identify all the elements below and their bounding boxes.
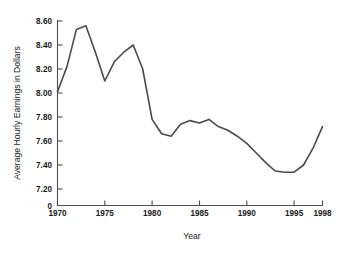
line-chart: 8.60 8.40 8.20 8.00 7.80 7.60 7.40 7.20 …: [0, 0, 344, 253]
y-tick-label: 7.80: [36, 113, 52, 122]
x-tick-labels: 1970 1975 1980 1985 1990 1995 1998: [48, 209, 332, 218]
x-tick-label: 1998: [313, 209, 332, 218]
x-tick-label: 1970: [48, 209, 67, 218]
x-tick-marks: [58, 201, 323, 206]
earnings-line-series: [58, 26, 323, 172]
y-tick-label: 8.20: [36, 65, 52, 74]
y-tick-labels: 8.60 8.40 8.20 8.00 7.80 7.60 7.40 7.20 …: [36, 17, 52, 211]
y-tick-label: 8.60: [36, 17, 52, 26]
y-tick-label: 8.40: [36, 41, 52, 50]
x-tick-label: 1975: [96, 209, 115, 218]
x-axis-title: Year: [183, 231, 201, 241]
y-tick-marks: [58, 21, 63, 189]
y-tick-label: 7.20: [36, 185, 52, 194]
chart-figure: 8.60 8.40 8.20 8.00 7.80 7.60 7.40 7.20 …: [0, 0, 344, 253]
axis-lines: [58, 21, 323, 206]
y-tick-label: 7.40: [36, 161, 52, 170]
x-tick-label: 1980: [143, 209, 162, 218]
x-tick-label: 1990: [238, 209, 257, 218]
x-tick-label: 1985: [190, 209, 209, 218]
y-axis-title: Average Hourly Earnings in Dollars: [12, 46, 22, 180]
y-tick-label: 8.00: [36, 89, 52, 98]
x-tick-label: 1995: [285, 209, 304, 218]
y-tick-label: 7.60: [36, 137, 52, 146]
